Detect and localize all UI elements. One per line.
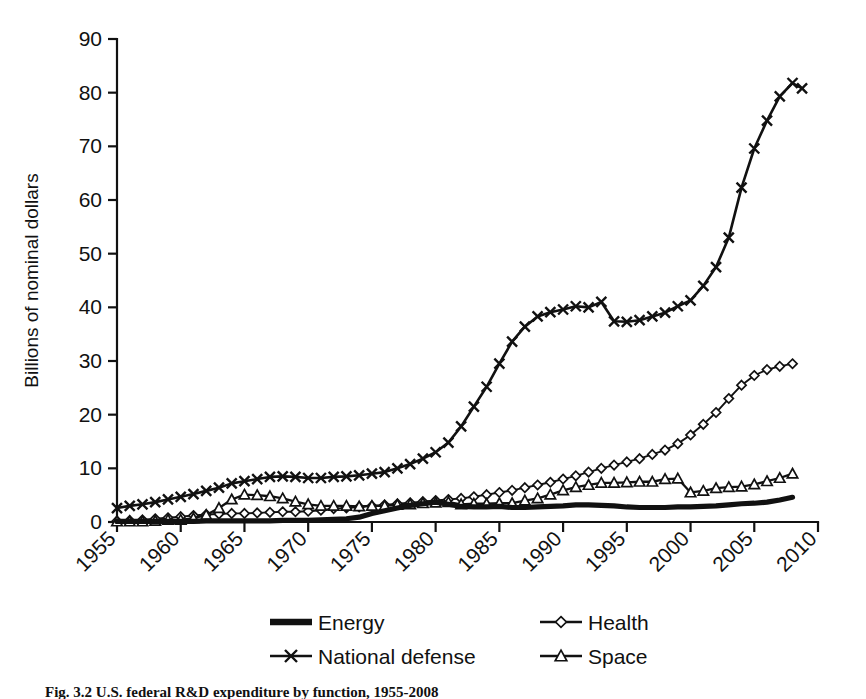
legend-label: Energy — [318, 611, 385, 634]
legend-label: National defense — [318, 645, 476, 668]
marker-national-defense — [482, 382, 492, 392]
marker-health — [546, 478, 555, 487]
marker-national-defense — [797, 83, 807, 93]
x-tick-label: 1975 — [325, 527, 374, 576]
x-tick-label: 1990 — [517, 527, 566, 576]
y-tick-label: 50 — [79, 242, 102, 265]
y-tick-label: 70 — [79, 134, 102, 157]
y-tick-label: 40 — [79, 295, 102, 318]
marker-health — [775, 362, 784, 371]
marker-health — [508, 486, 517, 495]
marker-health — [240, 509, 249, 518]
marker-health — [291, 507, 300, 516]
line-chart: 0102030405060708090195519601965197019751… — [0, 0, 866, 699]
marker-health — [495, 488, 504, 497]
y-tick-label: 30 — [79, 349, 102, 372]
marker-space — [787, 469, 797, 478]
marker-health — [278, 507, 287, 516]
marker-national-defense — [673, 301, 683, 311]
marker-national-defense — [469, 402, 479, 412]
marker-health — [788, 359, 797, 368]
figure-container: 0102030405060708090195519601965197019751… — [0, 0, 866, 699]
x-tick-label: 1970 — [262, 527, 311, 576]
marker-national-defense — [418, 454, 428, 464]
marker-health — [571, 471, 580, 480]
marker-health — [265, 508, 274, 517]
marker-national-defense — [596, 297, 606, 307]
legend-label: Health — [588, 611, 649, 634]
legend-entry-energy[interactable]: Energy — [270, 611, 385, 634]
y-axis-title: Billions of nominal dollars — [21, 173, 42, 387]
marker-national-defense — [431, 447, 441, 457]
legend-entry-national-defense[interactable]: National defense — [270, 645, 476, 668]
marker-health — [227, 509, 236, 518]
legend-marker-diamond — [556, 617, 567, 628]
marker-national-defense — [762, 116, 772, 126]
legend-entry-health[interactable]: Health — [540, 611, 649, 634]
figure-caption: Fig. 3.2 U.S. federal R&D expenditure by… — [45, 684, 438, 699]
x-tick-label: 1955 — [71, 527, 120, 576]
marker-national-defense — [698, 281, 708, 291]
marker-health — [648, 450, 657, 459]
x-tick-label: 1965 — [198, 527, 247, 576]
marker-national-defense — [494, 359, 504, 369]
marker-national-defense — [711, 262, 721, 272]
series-line-national-defense — [117, 83, 802, 508]
y-tick-label: 80 — [79, 81, 102, 104]
y-tick-label: 60 — [79, 188, 102, 211]
x-tick-label: 2010 — [772, 527, 821, 576]
marker-national-defense — [775, 91, 785, 101]
marker-health — [533, 480, 542, 489]
marker-national-defense — [520, 322, 530, 332]
marker-health — [635, 454, 644, 463]
marker-health — [584, 467, 593, 476]
x-tick-label: 2000 — [644, 527, 693, 576]
x-tick-label: 1980 — [389, 527, 438, 576]
x-tick-label: 2005 — [708, 527, 757, 576]
marker-health — [622, 457, 631, 466]
marker-health — [253, 508, 262, 517]
marker-national-defense — [686, 295, 696, 305]
marker-health — [762, 365, 771, 374]
marker-health — [558, 474, 567, 483]
y-tick-label: 90 — [79, 27, 102, 50]
legend-entry-space[interactable]: Space — [540, 645, 648, 668]
y-tick-label: 10 — [79, 456, 102, 479]
legend-label: Space — [588, 645, 648, 668]
marker-national-defense — [456, 421, 466, 431]
marker-health — [597, 464, 606, 473]
x-tick-label: 1985 — [453, 527, 502, 576]
marker-health — [520, 483, 529, 492]
y-tick-label: 20 — [79, 403, 102, 426]
marker-national-defense — [507, 337, 517, 347]
marker-health — [609, 461, 618, 470]
marker-health — [660, 445, 669, 454]
marker-national-defense — [443, 438, 453, 448]
x-tick-label: 1960 — [134, 527, 183, 576]
marker-national-defense — [788, 78, 798, 88]
x-tick-label: 1995 — [580, 527, 629, 576]
